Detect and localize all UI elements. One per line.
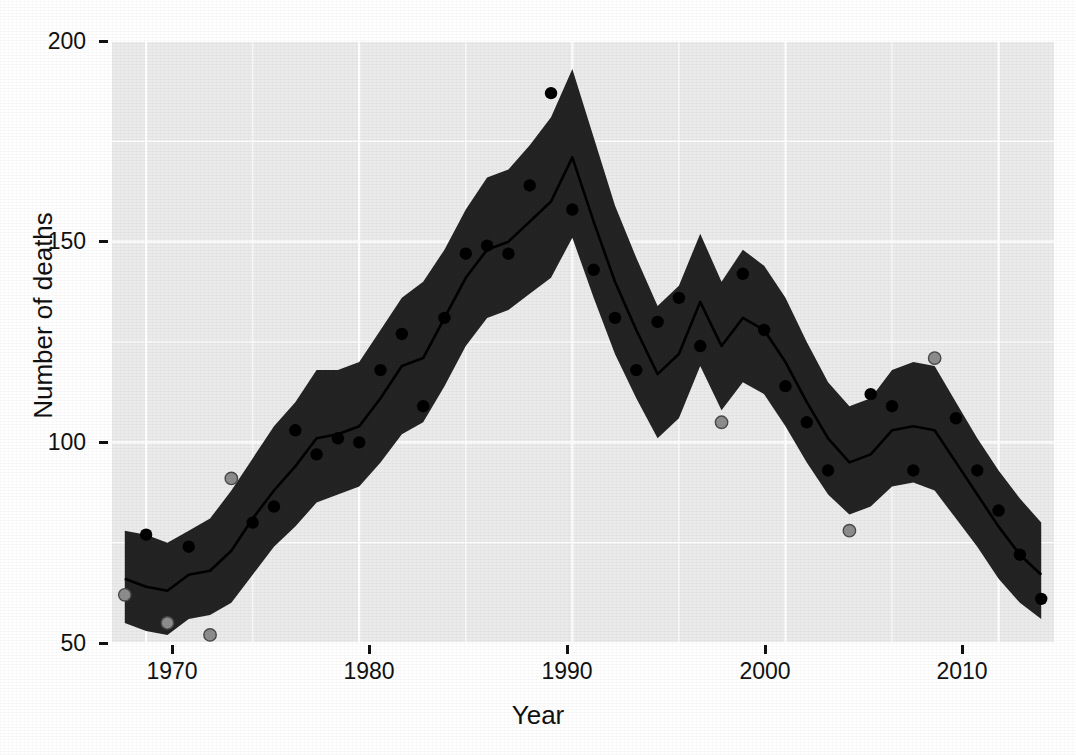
data-point: [502, 248, 514, 260]
data-point: [801, 416, 813, 428]
data-point: [950, 412, 962, 424]
data-point: [587, 264, 599, 276]
outlier-data-point: [204, 629, 216, 641]
y-tick-label-50: 50: [10, 630, 86, 657]
data-point: [396, 328, 408, 340]
confidence-band: [125, 69, 1041, 635]
data-point: [971, 464, 983, 476]
x-tick-mark-1980: [368, 645, 371, 654]
data-point: [332, 432, 344, 444]
data-point: [268, 500, 280, 512]
x-tick-label-1980: 1980: [309, 658, 429, 685]
data-point: [183, 540, 195, 552]
outlier-data-point: [119, 589, 131, 601]
data-point: [779, 380, 791, 392]
y-tick-mark-100: [99, 441, 108, 444]
data-point: [374, 364, 386, 376]
x-tick-mark-1990: [566, 645, 569, 654]
x-tick-mark-2000: [764, 645, 767, 654]
data-point: [865, 388, 877, 400]
data-point: [140, 528, 152, 540]
data-point: [566, 203, 578, 215]
outlier-data-point: [161, 617, 173, 629]
data-point: [737, 268, 749, 280]
data-point: [758, 324, 770, 336]
data-point: [481, 239, 493, 251]
data-point: [417, 400, 429, 412]
data-point: [246, 516, 258, 528]
data-point: [545, 87, 557, 99]
y-tick-mark-200: [99, 40, 108, 43]
x-axis-title: Year: [0, 700, 1076, 731]
chart-figure: Number of deaths Year 200 150 100 50 197…: [0, 0, 1076, 755]
data-point: [907, 464, 919, 476]
x-tick-label-2010: 2010: [902, 658, 1022, 685]
outlier-data-point: [928, 352, 940, 364]
data-point: [822, 464, 834, 476]
data-point: [886, 400, 898, 412]
outlier-data-point: [715, 416, 727, 428]
outlier-data-point: [225, 472, 237, 484]
data-point: [524, 179, 536, 191]
x-tick-label-1990: 1990: [507, 658, 627, 685]
y-tick-label-200: 200: [10, 28, 86, 55]
y-tick-label-100: 100: [10, 429, 86, 456]
data-point: [1014, 549, 1026, 561]
data-point: [630, 364, 642, 376]
clipped-caption-strip: [0, 0, 1076, 9]
outlier-data-point: [843, 524, 855, 536]
y-tick-mark-50: [99, 642, 108, 645]
data-point: [310, 448, 322, 460]
data-point: [673, 292, 685, 304]
x-tick-label-2000: 2000: [705, 658, 825, 685]
y-tick-mark-150: [99, 240, 108, 243]
data-point: [609, 312, 621, 324]
x-tick-mark-2010: [961, 645, 964, 654]
x-tick-label-1970: 1970: [112, 658, 232, 685]
data-point: [289, 424, 301, 436]
data-point: [1035, 593, 1047, 605]
data-point: [460, 248, 472, 260]
x-tick-mark-1970: [171, 645, 174, 654]
data-point: [694, 340, 706, 352]
data-point: [438, 312, 450, 324]
data-point: [992, 504, 1004, 516]
y-tick-label-150: 150: [10, 228, 86, 255]
plot-panel: [112, 41, 1054, 643]
data-point: [353, 436, 365, 448]
data-point: [651, 316, 663, 328]
plot-svg: [112, 41, 1054, 643]
